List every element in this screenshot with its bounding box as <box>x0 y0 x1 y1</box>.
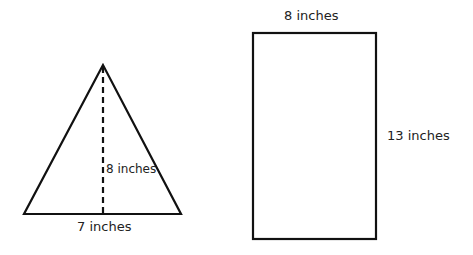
rectangle-width-label: 8 inches <box>284 8 338 23</box>
rectangle-height-label: 13 inches <box>387 128 450 143</box>
triangle-height-label: 8 inches <box>106 162 156 176</box>
triangle-base-label: 7 inches <box>77 219 131 234</box>
rectangle <box>253 33 376 239</box>
